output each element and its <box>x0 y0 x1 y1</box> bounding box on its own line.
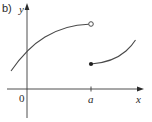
x-axis-arrow-icon <box>137 87 144 92</box>
y-axis-arrow-icon <box>25 3 30 10</box>
left-branch-curve <box>11 24 89 71</box>
right-branch-curve <box>91 40 136 64</box>
function-graph-figure: b) y 0 a x <box>0 0 152 122</box>
filled-dot-endpoint <box>89 62 93 66</box>
origin-label: 0 <box>19 93 25 104</box>
part-label: b) <box>2 3 12 14</box>
x-axis-label: x <box>136 94 141 105</box>
open-circle-endpoint <box>89 22 94 27</box>
y-axis-label: y <box>19 4 24 15</box>
tick-label-a: a <box>88 94 94 105</box>
